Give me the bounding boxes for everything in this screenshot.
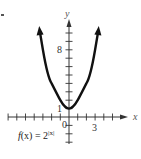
bullet-marker [1, 14, 4, 16]
curve-left-arrow-icon [37, 26, 44, 36]
origin-label: 0 [62, 119, 67, 130]
function-graph: x 3 0 y 8 1 f(x) = 2|x| [0, 0, 141, 159]
y-axis-label: y [64, 8, 70, 19]
x-axis-label: x [132, 111, 138, 122]
x-tick-label-3: 3 [92, 122, 97, 133]
y-tick-label-8: 8 [57, 44, 62, 55]
function-label: f(x) = 2|x| [18, 129, 54, 142]
y-axis-arrow-icon [67, 19, 72, 27]
y-tick-label-1: 1 [57, 103, 62, 114]
x-axis-arrow-icon [120, 115, 128, 120]
curve-right-arrow-icon [94, 26, 101, 36]
